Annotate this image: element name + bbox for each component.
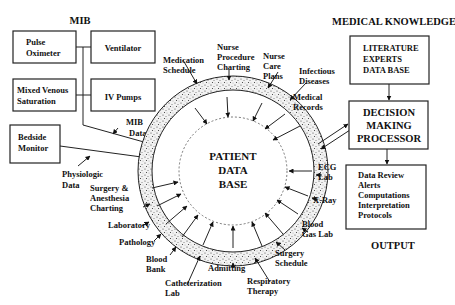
svg-text:Interpretation: Interpretation	[358, 200, 410, 210]
svg-text:Monitor: Monitor	[18, 143, 48, 153]
ventilator-box: Ventilator	[91, 31, 155, 63]
decision-making-processor-box: DECISION MAKING PROCESSOR	[349, 101, 428, 149]
svg-text:PROCESSOR: PROCESSOR	[357, 133, 422, 144]
svg-text:Bedside: Bedside	[18, 132, 47, 142]
svg-text:Pulse: Pulse	[26, 37, 46, 47]
patient-data-base-diagram: MIB MEDICAL KNOWLEDGE OUTPUT Pulse Oxime…	[0, 0, 455, 305]
svg-text:BASE: BASE	[219, 178, 248, 190]
heading-output: OUTPUT	[371, 240, 415, 251]
svg-text:Lab: Lab	[165, 288, 180, 298]
label-medical-records: Medical	[293, 92, 323, 102]
label-nurse-procedure-charting: Nurse	[217, 42, 239, 52]
literature-box: LITERATURE EXPERTS DATA BASE	[350, 36, 429, 84]
label-medication-schedule: Medication	[163, 55, 204, 65]
svg-text:MAKING: MAKING	[366, 120, 412, 131]
svg-text:Charting: Charting	[217, 62, 251, 72]
label-nurse-care-plans: Nurse	[263, 51, 285, 61]
svg-text:EXPERTS: EXPERTS	[363, 54, 402, 64]
svg-text:Diseases: Diseases	[299, 76, 330, 86]
label-laboratory: Laboratory	[108, 220, 151, 230]
svg-text:Alerts: Alerts	[358, 180, 381, 190]
svg-text:Data Review: Data Review	[358, 170, 405, 180]
svg-text:Records: Records	[293, 102, 323, 112]
label-x-ray: X-Ray	[313, 195, 337, 205]
svg-text:Therapy: Therapy	[247, 286, 279, 296]
svg-text:Schedule: Schedule	[275, 258, 308, 268]
label-pathology: Pathology	[119, 237, 156, 247]
label-blood-gas-lab: Blood	[302, 219, 324, 229]
svg-text:Plans: Plans	[263, 71, 284, 81]
svg-text:IV Pumps: IV Pumps	[105, 92, 142, 102]
label-mib-data: MIB	[126, 117, 143, 127]
label-admitting: Admitting	[208, 263, 246, 273]
label-ecg-lab: ECG	[318, 162, 337, 172]
svg-text:Oximeter: Oximeter	[26, 48, 61, 58]
svg-text:Saturation: Saturation	[17, 96, 56, 106]
svg-text:Care: Care	[263, 61, 281, 71]
svg-text:Anesthesia: Anesthesia	[90, 193, 130, 203]
label-blood-bank: Blood	[146, 254, 168, 264]
label-infectious-diseases: Infectious	[299, 66, 336, 76]
svg-text:LITERATURE: LITERATURE	[363, 43, 419, 53]
mixed-venous-saturation-box: Mixed Venous Saturation	[13, 79, 76, 111]
label-respiratory-therapy: Respiratory	[247, 276, 291, 286]
label-surgery-schedule: Surgery	[275, 248, 305, 258]
output-box: Data Review Alerts Computations Interpre…	[346, 165, 426, 229]
svg-text:Mixed Venous: Mixed Venous	[17, 85, 69, 95]
svg-text:PATIENT: PATIENT	[209, 150, 257, 162]
svg-text:DECISION: DECISION	[363, 107, 415, 118]
svg-text:Gas Lab: Gas Lab	[302, 229, 333, 239]
svg-text:Data: Data	[62, 180, 80, 190]
svg-text:Charting: Charting	[90, 203, 124, 213]
label-physiologic-data: Physiologic	[62, 169, 103, 179]
heading-mib: MIB	[70, 15, 91, 26]
svg-text:Bank: Bank	[146, 264, 166, 274]
pulse-oximeter-box: Pulse Oximeter	[13, 31, 76, 63]
svg-text:Ventilator: Ventilator	[105, 43, 142, 53]
svg-text:DATA BASE: DATA BASE	[363, 65, 410, 75]
heading-medical-knowledge: MEDICAL KNOWLEDGE	[332, 16, 455, 27]
svg-text:Computations: Computations	[358, 190, 410, 200]
iv-pumps-box: IV Pumps	[91, 79, 155, 111]
svg-text:Schedule: Schedule	[163, 65, 196, 75]
svg-text:Lab: Lab	[318, 172, 333, 182]
bedside-monitor-box: Bedside Monitor	[10, 125, 60, 163]
svg-text:DATA: DATA	[218, 164, 248, 176]
svg-text:Procedure: Procedure	[217, 52, 255, 62]
svg-text:Protocols: Protocols	[358, 210, 393, 220]
label-surgery-anesthesia-charting: Surgery &	[90, 183, 128, 193]
label-catheterization-lab: Catheterization	[165, 278, 222, 288]
